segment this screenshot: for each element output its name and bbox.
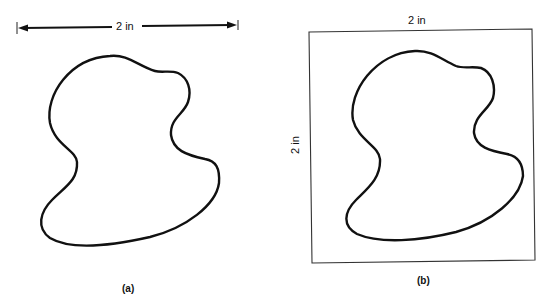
caption-b: (b) bbox=[417, 275, 430, 286]
arrow-right-icon bbox=[227, 22, 237, 29]
height-label-b: 2 in bbox=[289, 136, 301, 154]
figure-canvas bbox=[0, 0, 544, 300]
caption-a: (a) bbox=[122, 283, 134, 294]
dimension-label-a: 2 in bbox=[116, 20, 134, 32]
width-label-b: 2 in bbox=[408, 14, 426, 26]
blob-shape-a bbox=[41, 56, 219, 246]
blob-shape-b bbox=[346, 51, 523, 240]
arrow-left-icon bbox=[18, 25, 28, 32]
bounding-square-b bbox=[309, 29, 535, 263]
